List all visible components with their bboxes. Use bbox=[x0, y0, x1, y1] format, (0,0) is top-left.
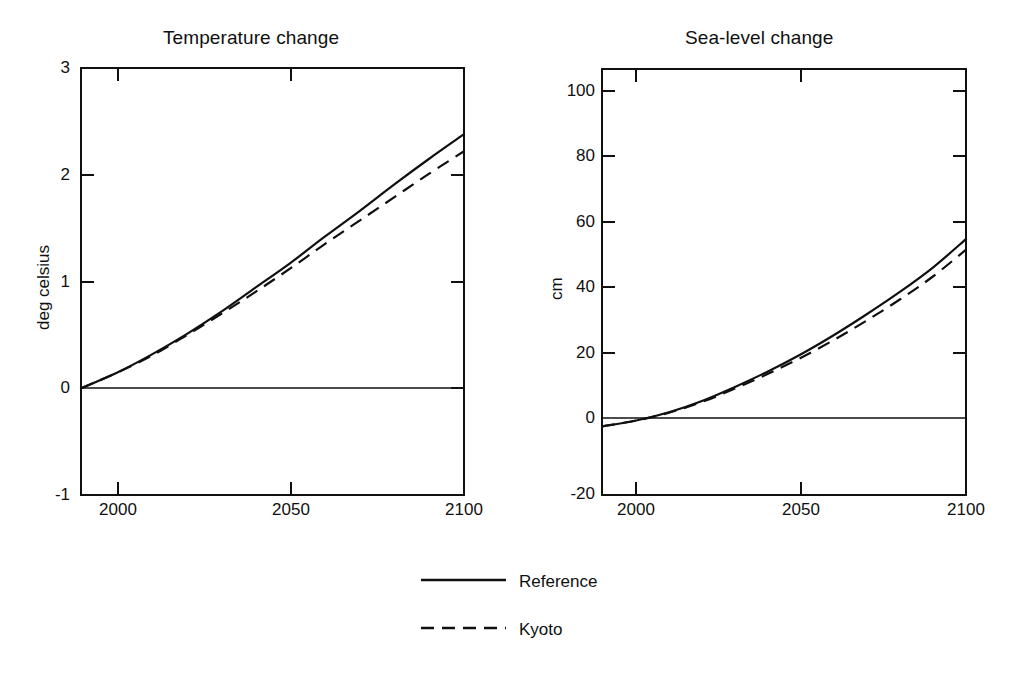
plot-vector-layer bbox=[0, 0, 1022, 673]
temperature-reference-curve bbox=[81, 134, 464, 388]
temperature-data-series bbox=[81, 134, 464, 388]
temperature-kyoto-curve bbox=[81, 151, 464, 388]
legend-swatches bbox=[421, 580, 506, 628]
sea-level-kyoto-curve bbox=[602, 250, 966, 427]
sea-level-axes-frame bbox=[602, 69, 966, 495]
sea-level-plot-border bbox=[602, 69, 966, 495]
legend-label-kyoto: Kyoto bbox=[519, 620, 562, 640]
sea-level-data-series bbox=[602, 239, 966, 426]
sea-level-reference-curve bbox=[602, 239, 966, 426]
legend-label-reference: Reference bbox=[519, 572, 597, 592]
figure-canvas: Temperature change Sea-level change deg … bbox=[0, 0, 1022, 673]
